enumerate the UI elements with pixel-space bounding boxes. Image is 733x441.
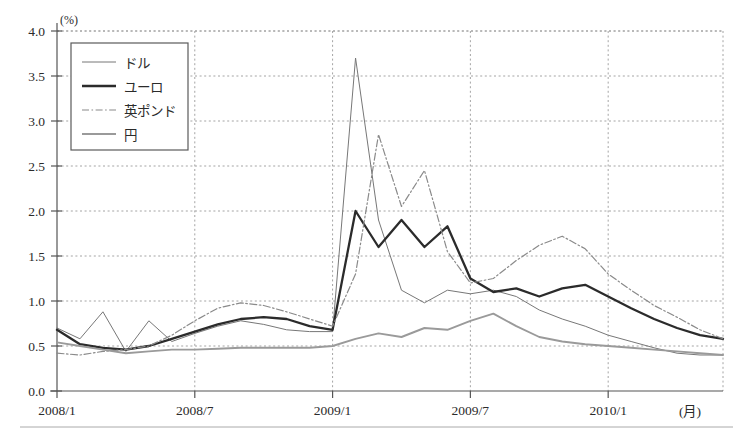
x-axis-label: (月)	[679, 404, 701, 419]
legend-label-円: 円	[124, 128, 137, 143]
y-tick-label: 1.0	[28, 294, 45, 309]
x-tick-label: 2008/7	[176, 403, 214, 418]
y-tick-label: 3.0	[28, 114, 45, 129]
line-chart: 0.00.51.01.52.02.53.03.54.0 2008/12008/7…	[0, 0, 733, 441]
y-tick-label: 3.5	[28, 69, 45, 84]
x-tick-label: 2009/1	[314, 403, 352, 418]
y-tick-label: 2.0	[28, 204, 45, 219]
legend-label-ユーロ: ユーロ	[124, 80, 163, 95]
legend-label-ドル: ドル	[124, 56, 150, 71]
y-tick-label: 0.5	[28, 339, 45, 354]
x-tick-label: 2009/7	[452, 403, 490, 418]
chart-container: 0.00.51.01.52.02.53.03.54.0 2008/12008/7…	[0, 0, 733, 441]
x-tick-label: 2010/1	[589, 403, 627, 418]
y-axis-unit-label: (%)	[60, 13, 78, 27]
y-tick-label: 1.5	[28, 249, 45, 264]
y-tick-label: 2.5	[28, 159, 45, 174]
x-tick-label: 2008/1	[38, 403, 76, 418]
chart-legend: ドルユーロ英ポンド円	[71, 43, 188, 150]
y-tick-label: 0.0	[28, 384, 45, 399]
y-tick-label: 4.0	[28, 24, 45, 39]
legend-label-英ポンド: 英ポンド	[124, 103, 176, 119]
